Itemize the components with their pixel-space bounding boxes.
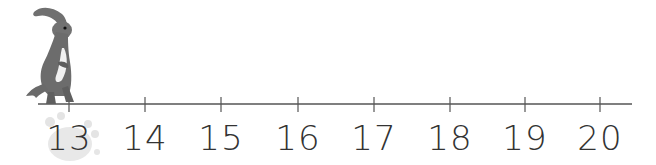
number-line [0,0,656,165]
tick-label-13: 13 [46,118,91,158]
tick-label-17: 17 [351,118,396,158]
dinosaur-icon [22,4,82,106]
tick-label-20: 20 [577,118,622,158]
tick-label-14: 14 [122,118,167,158]
tick-label-19: 19 [502,118,547,158]
tick-label-15: 15 [198,118,243,158]
tick-label-16: 16 [275,118,320,158]
tick-label-18: 18 [427,118,472,158]
